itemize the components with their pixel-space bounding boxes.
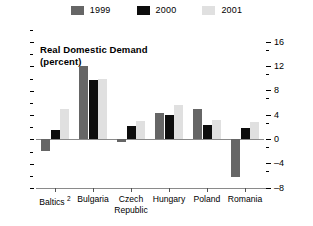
legend-swatch-icon xyxy=(137,6,150,15)
bar-group xyxy=(193,42,221,188)
y-axis-label: 16 xyxy=(274,38,284,47)
left-axis-tick xyxy=(30,188,34,189)
y-axis-minor-tick xyxy=(266,50,269,51)
y-axis-tick: 0 xyxy=(266,135,279,144)
bar-group xyxy=(231,42,259,188)
x-axis-label: Romania xyxy=(213,194,277,205)
bar[interactable] xyxy=(89,80,98,140)
bar[interactable] xyxy=(193,109,202,139)
bar[interactable] xyxy=(250,122,259,139)
bar[interactable] xyxy=(203,125,212,140)
tick-dash-icon xyxy=(266,147,269,148)
bar[interactable] xyxy=(136,121,145,139)
left-axis-tick xyxy=(30,152,33,153)
tick-dash-icon xyxy=(266,66,271,67)
left-axis-tick xyxy=(30,42,34,43)
y-axis-minor-tick xyxy=(266,171,269,172)
left-axis-tick xyxy=(30,66,34,67)
y-axis-tick: –8 xyxy=(266,184,284,193)
y-axis-tick: 8 xyxy=(266,86,279,95)
x-axis-tick xyxy=(169,188,170,192)
legend-swatch-icon xyxy=(71,6,84,15)
bar[interactable] xyxy=(117,139,126,141)
legend-item-1999[interactable]: 1999 xyxy=(71,6,111,15)
x-axis-labels: Baltics 2BulgariaCzech RepublicHungaryPo… xyxy=(0,194,313,226)
y-axis-tick: 12 xyxy=(266,62,284,71)
tick-dash-icon xyxy=(266,42,271,43)
bar[interactable] xyxy=(165,115,174,139)
left-axis-tick xyxy=(30,176,33,177)
legend-label: 2000 xyxy=(156,6,177,15)
tick-dash-icon xyxy=(266,98,269,99)
left-axis-tick xyxy=(30,115,34,116)
y-axis-label: 4 xyxy=(274,111,279,120)
y-axis-label: 8 xyxy=(274,86,279,95)
y-axis-minor-tick xyxy=(266,123,269,124)
bar-group xyxy=(155,42,183,188)
y-axis-label: 0 xyxy=(274,135,279,144)
tick-dash-icon xyxy=(266,188,271,189)
tick-dash-icon xyxy=(266,171,269,172)
x-axis-tick xyxy=(245,188,246,192)
bar[interactable] xyxy=(51,130,60,139)
left-axis-tick xyxy=(30,30,33,31)
bar[interactable] xyxy=(241,128,250,139)
x-axis-tick xyxy=(207,188,208,192)
chart-root: 199920002001 Real Domestic Demand (perce… xyxy=(0,0,313,226)
bar[interactable] xyxy=(79,66,88,139)
tick-dash-icon xyxy=(266,74,269,75)
y-axis-label: –4 xyxy=(274,159,284,168)
bar[interactable] xyxy=(174,105,183,139)
legend-swatch-icon xyxy=(202,6,215,15)
bar[interactable] xyxy=(98,79,107,139)
y-axis-tick: –4 xyxy=(266,159,284,168)
bar-group xyxy=(79,42,107,188)
tick-dash-icon xyxy=(266,123,269,124)
bar[interactable] xyxy=(127,126,136,139)
left-axis-tick xyxy=(30,139,34,140)
y-axis: 1612840–4–8 xyxy=(266,42,313,189)
legend-label: 2001 xyxy=(221,6,242,15)
bar-group xyxy=(117,42,145,188)
bar[interactable] xyxy=(155,113,164,139)
chart-legend: 199920002001 xyxy=(0,6,313,15)
tick-dash-icon xyxy=(266,90,271,91)
bar[interactable] xyxy=(60,109,69,139)
legend-label: 1999 xyxy=(90,6,111,15)
y-axis-tick: 4 xyxy=(266,111,279,120)
y-axis-minor-tick xyxy=(266,74,269,75)
left-axis-tick xyxy=(30,127,33,128)
x-axis-tick xyxy=(55,188,56,192)
x-axis-tick xyxy=(131,188,132,192)
y-axis-minor-tick xyxy=(266,98,269,99)
bar-group xyxy=(41,42,69,188)
bar[interactable] xyxy=(212,120,221,139)
bar[interactable] xyxy=(41,139,50,151)
left-axis-tick xyxy=(30,54,33,55)
y-axis-label: 12 xyxy=(274,62,284,71)
y-axis-minor-tick xyxy=(266,147,269,148)
tick-dash-icon xyxy=(266,50,269,51)
y-axis-label: –8 xyxy=(274,184,284,193)
legend-item-2000[interactable]: 2000 xyxy=(137,6,177,15)
x-axis-line xyxy=(36,188,270,189)
left-axis-tick xyxy=(30,91,34,92)
bar[interactable] xyxy=(231,139,240,177)
tick-dash-icon xyxy=(266,163,271,164)
y-axis-tick: 16 xyxy=(266,38,284,47)
left-axis-tick xyxy=(30,164,34,165)
tick-dash-icon xyxy=(266,115,271,116)
plot-area xyxy=(36,42,264,188)
left-axis-tick xyxy=(30,103,33,104)
legend-item-2001[interactable]: 2001 xyxy=(202,6,242,15)
tick-dash-icon xyxy=(266,139,271,140)
left-axis-tick xyxy=(30,79,33,80)
zero-line xyxy=(36,139,264,140)
x-axis-tick xyxy=(93,188,94,192)
